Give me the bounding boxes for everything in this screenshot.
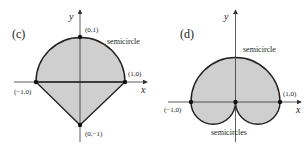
x-label-c: x: [140, 84, 146, 95]
y-label-d: y: [223, 11, 229, 22]
point-0-neg1: [78, 123, 82, 127]
annotation-semicircles-d: semicircles: [211, 128, 247, 137]
label-1-0: (1,0): [128, 70, 142, 78]
point-d-origin: [233, 100, 237, 104]
panel-label-c: (c): [12, 27, 25, 41]
label-d-neg1-0: (−1,0): [164, 106, 182, 114]
y-label-c: y: [68, 11, 74, 22]
region-c: [36, 38, 125, 126]
label-0-1: (0,1): [85, 26, 99, 34]
label-neg1-0: (−1,0): [14, 88, 32, 96]
label-0-neg1: (0,−1): [85, 130, 103, 138]
panel-c: (c) y x (0,1) (1,0) (−1,0) (0,−1) semici…: [12, 10, 147, 142]
point-neg1-0: [34, 80, 38, 84]
label-d-1-0: (1,0): [283, 90, 297, 98]
point-0-1: [78, 35, 82, 39]
annotation-semicircle-d: semicircle: [243, 45, 276, 54]
panel-d: (d) y x (1,0) (−1,0) semicircle semicirc…: [164, 10, 301, 142]
point-d-1-0: [278, 100, 282, 104]
point-1-0: [123, 80, 127, 84]
point-d-neg1-0: [189, 100, 193, 104]
x-label-d: x: [295, 104, 301, 115]
annotation-semicircle-c: semicircle: [107, 37, 140, 46]
panel-label-d: (d): [180, 27, 194, 41]
diagram-canvas: (c) y x (0,1) (1,0) (−1,0) (0,−1) semici…: [0, 0, 308, 153]
